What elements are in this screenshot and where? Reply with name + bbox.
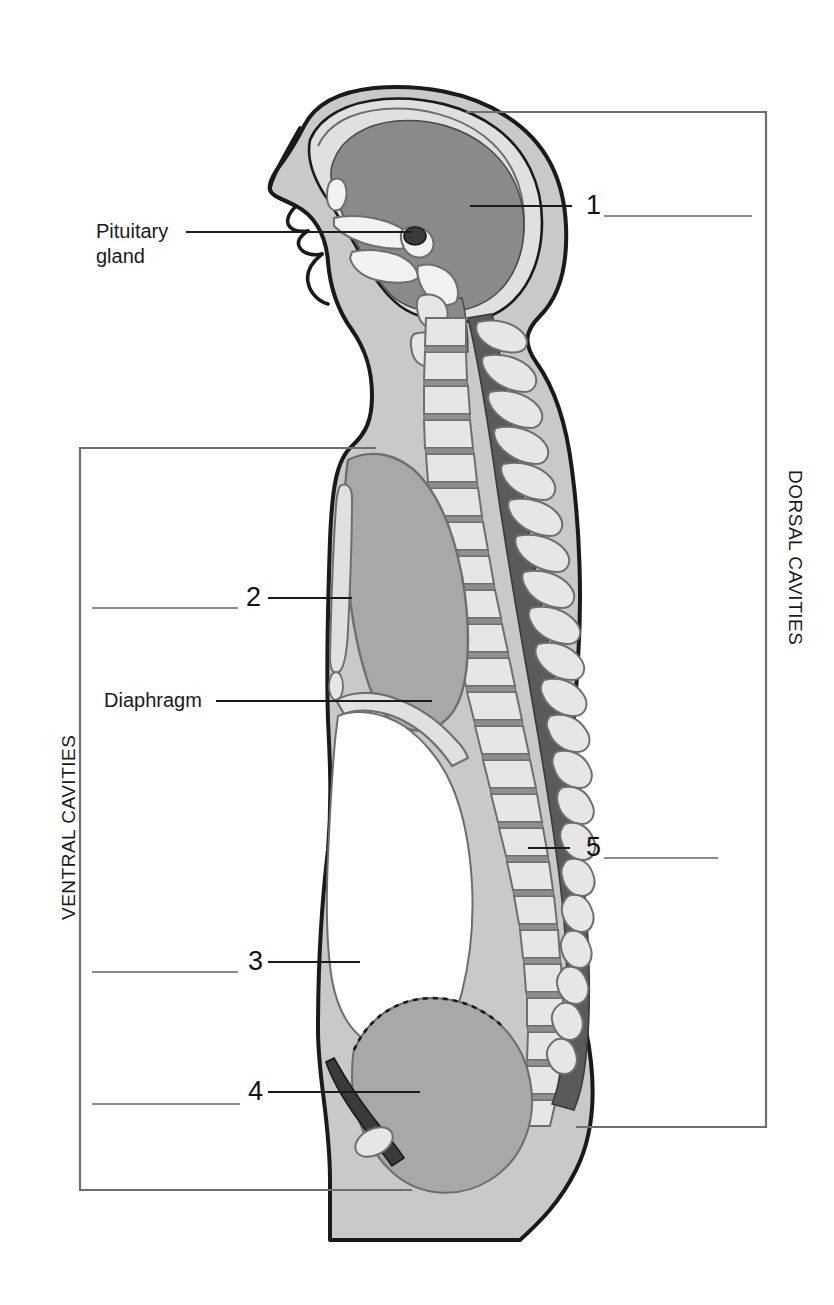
diagram-canvas: Pituitarygland Diaphragm 1 2 3 4 5 DORSA… bbox=[0, 0, 834, 1305]
body-cavities-illustration bbox=[0, 0, 834, 1305]
callout-number-2: 2 bbox=[246, 584, 261, 611]
callout-number-5: 5 bbox=[586, 834, 601, 861]
bracket-label-dorsal-cavities: DORSAL CAVITIES bbox=[784, 470, 806, 645]
callout-number-4: 4 bbox=[248, 1078, 263, 1105]
label-diaphragm: Diaphragm bbox=[104, 688, 202, 713]
callout-number-1: 1 bbox=[586, 192, 601, 219]
label-pituitary-line2: gland bbox=[96, 245, 145, 267]
pituitary-gland-marker bbox=[404, 227, 426, 245]
bracket-label-ventral-cavities: VENTRAL CAVITIES bbox=[58, 735, 80, 920]
label-pituitary-line1: Pituitary bbox=[96, 220, 168, 242]
callout-number-3: 3 bbox=[248, 948, 263, 975]
label-pituitary-gland: Pituitarygland bbox=[96, 219, 168, 269]
